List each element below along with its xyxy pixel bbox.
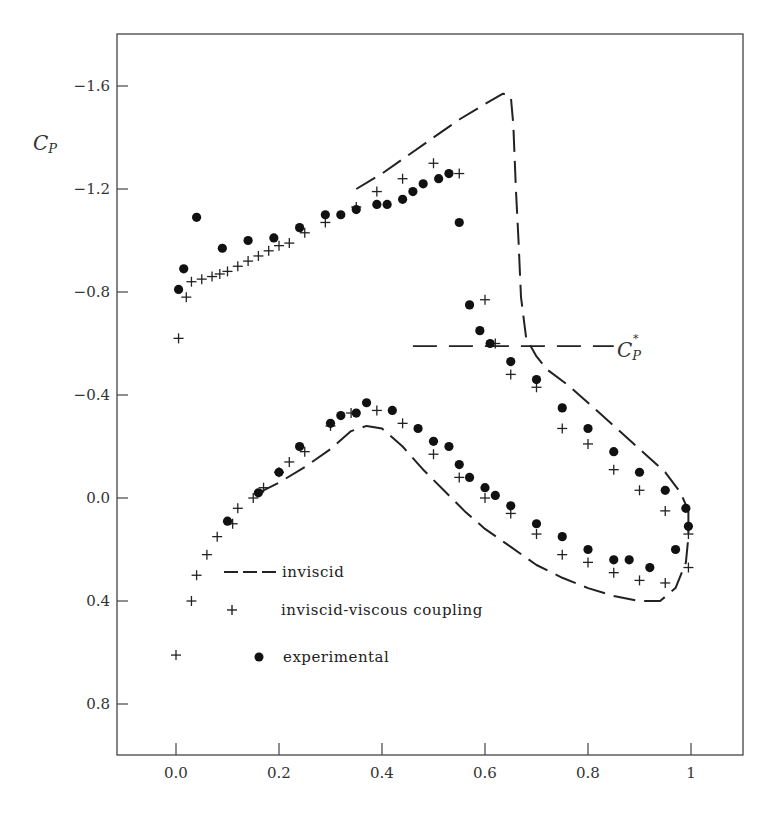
experimental-point	[661, 486, 670, 495]
plus-marker	[233, 261, 243, 271]
filled-circle-icon	[255, 653, 264, 662]
plus-marker	[215, 269, 225, 279]
legend-item-coupling: inviscid-viscous coupling	[227, 601, 483, 619]
svg-text:experimental: experimental	[283, 648, 389, 666]
plus-marker	[583, 439, 593, 449]
y-tick-label: 0.0	[86, 489, 110, 507]
experimental-point	[408, 187, 417, 196]
inviscid-upper-curve	[356, 94, 688, 511]
x-tick-label: 0.0	[164, 764, 188, 782]
plus-marker	[609, 465, 619, 475]
y-axis-title: CP	[33, 131, 57, 156]
plus-marker	[583, 557, 593, 567]
plus-marker	[557, 550, 567, 560]
experimental-point	[269, 233, 278, 242]
plus-marker	[635, 485, 645, 495]
y-tick-label: −0.8	[74, 283, 110, 301]
experimental-point	[465, 300, 474, 309]
experimental-point	[388, 406, 397, 415]
experimental-point	[336, 411, 345, 420]
experimental-series	[174, 169, 693, 572]
experimental-point	[455, 218, 464, 227]
experimental-point	[244, 236, 253, 245]
experimental-point	[583, 545, 592, 554]
experimental-point	[429, 437, 438, 446]
experimental-point	[583, 424, 592, 433]
plus-marker	[454, 472, 464, 482]
plus-marker	[398, 174, 408, 184]
plus-marker	[660, 578, 670, 588]
experimental-point	[352, 408, 361, 417]
experimental-point	[321, 210, 330, 219]
plus-marker	[532, 529, 542, 539]
plus-marker	[243, 256, 253, 266]
experimental-point	[295, 442, 304, 451]
experimental-point	[326, 419, 335, 428]
experimental-point	[486, 339, 495, 348]
svg-text:inviscid: inviscid	[282, 563, 344, 581]
plus-marker	[212, 532, 222, 542]
plot-frame	[117, 34, 743, 755]
x-tick-label: 0.4	[370, 764, 394, 782]
legend-item-experimental: experimental	[255, 648, 390, 666]
plus-marker	[372, 187, 382, 197]
experimental-point	[558, 403, 567, 412]
plus-marker	[186, 277, 196, 287]
experimental-point	[455, 460, 464, 469]
experimental-point	[444, 442, 453, 451]
x-tick-label: 1	[686, 764, 696, 782]
experimental-point	[671, 545, 680, 554]
plus-marker	[429, 449, 439, 459]
plus-marker	[197, 274, 207, 284]
plus-marker	[372, 405, 382, 415]
experimental-point	[274, 468, 283, 477]
experimental-point	[480, 483, 489, 492]
experimental-point	[491, 491, 500, 500]
experimental-point	[506, 357, 515, 366]
plus-marker	[480, 295, 490, 305]
experimental-point	[254, 488, 263, 497]
experimental-point	[398, 195, 407, 204]
y-axis-ticks: −1.6−1.2−0.8−0.40.00.40.8	[74, 77, 128, 713]
y-tick-label: −1.6	[74, 77, 110, 95]
plus-marker	[264, 246, 274, 256]
experimental-point	[295, 223, 304, 232]
experimental-point	[609, 555, 618, 564]
plus-marker	[233, 503, 243, 513]
experimental-point	[681, 504, 690, 513]
legend-item-inviscid: inviscid	[224, 563, 344, 581]
y-tick-label: −0.4	[74, 386, 110, 404]
pressure-coefficient-chart: −1.6−1.2−0.8−0.40.00.40.8 0.00.20.40.60.…	[0, 0, 781, 817]
experimental-point	[558, 532, 567, 541]
experimental-point	[419, 179, 428, 188]
plus-marker	[398, 418, 408, 428]
experimental-point	[465, 473, 474, 482]
experimental-point	[218, 244, 227, 253]
y-tick-label: 0.4	[86, 592, 110, 610]
experimental-point	[625, 555, 634, 564]
experimental-point	[223, 517, 232, 526]
plus-marker	[171, 650, 181, 660]
experimental-point	[444, 169, 453, 178]
plus-marker	[506, 369, 516, 379]
experimental-point	[609, 447, 618, 456]
experimental-point	[645, 563, 654, 572]
x-axis-ticks: 0.00.20.40.60.81	[164, 743, 696, 782]
experimental-point	[179, 264, 188, 273]
experimental-point	[434, 174, 443, 183]
experimental-point	[383, 200, 392, 209]
plus-marker	[284, 457, 294, 467]
experimental-point	[532, 375, 541, 384]
plus-marker	[429, 158, 439, 168]
experimental-point	[684, 522, 693, 531]
x-tick-label: 0.8	[576, 764, 600, 782]
plus-marker	[186, 596, 196, 606]
experimental-point	[352, 205, 361, 214]
plus-marker-icon	[227, 605, 237, 615]
legend: inviscid inviscid-viscous coupling exper…	[224, 563, 483, 666]
plus-marker	[557, 423, 567, 433]
y-tick-label: 0.8	[86, 695, 110, 713]
plus-marker	[635, 575, 645, 585]
svg-text:inviscid-viscous coupling: inviscid-viscous coupling	[281, 601, 483, 619]
experimental-point	[532, 519, 541, 528]
